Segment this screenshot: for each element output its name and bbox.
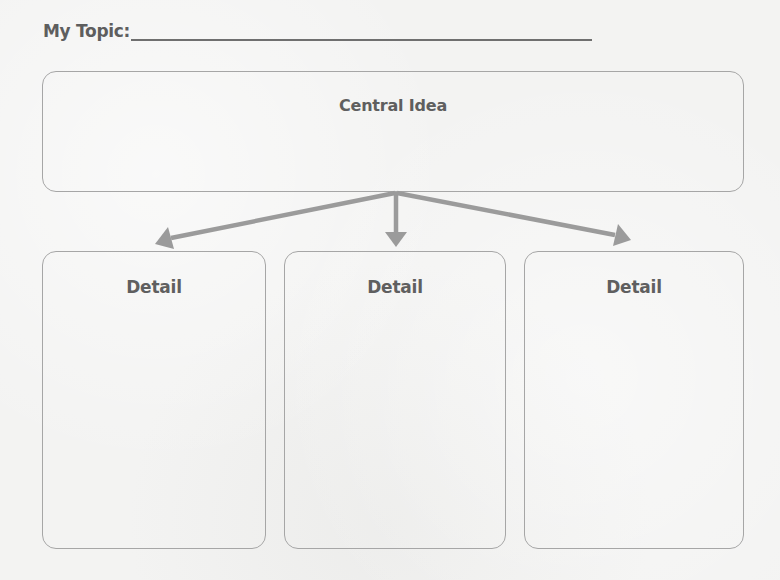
detail-2-write-area[interactable] [295,312,495,538]
detail-box-3[interactable]: Detail [524,251,744,549]
arrow-to-detail-3-head-icon [613,224,631,246]
topic-label: My Topic: [43,21,130,41]
detail-box-2[interactable]: Detail [284,251,506,549]
arrow-to-detail-1-head-icon [155,227,174,249]
arrow-to-detail-1-shaft [171,193,395,238]
central-idea-title: Central Idea [43,96,743,115]
detail-3-title: Detail [525,277,743,297]
arrow-to-detail-2-head-icon [385,232,407,247]
arrow-to-detail-3-shaft [397,193,615,235]
detail-1-write-area[interactable] [53,312,255,538]
detail-2-title: Detail [285,277,505,297]
central-idea-box[interactable]: Central Idea [42,71,744,192]
detail-3-write-area[interactable] [535,312,733,538]
central-idea-write-area[interactable] [53,132,733,181]
detail-box-1[interactable]: Detail [42,251,266,549]
topic-row: My Topic: [43,21,603,47]
topic-answer-line[interactable] [131,39,592,41]
detail-1-title: Detail [43,277,265,297]
